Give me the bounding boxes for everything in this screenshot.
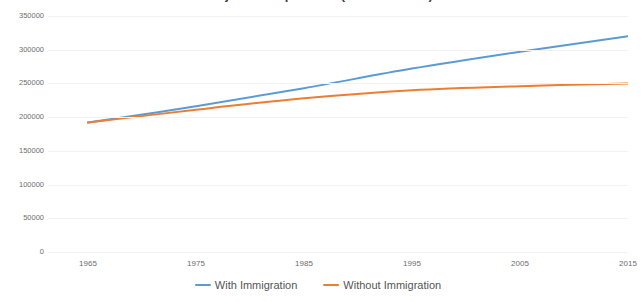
x-axis-tick-label: 1985 [274, 258, 334, 270]
x-axis-tick-label: 2005 [490, 258, 550, 270]
y-axis-tick-label: 50000 [0, 214, 44, 222]
chart-legend: With ImmigrationWithout Immigration [0, 278, 636, 292]
legend-item[interactable]: Without Immigration [323, 278, 441, 292]
legend-item[interactable]: With Immigration [195, 278, 298, 292]
chart-title: Projected Population (in thousands) [0, 0, 636, 2]
legend-item-label: Without Immigration [343, 278, 441, 292]
y-axis-tick-label: 100000 [0, 181, 44, 189]
legend-color-swatch [195, 284, 211, 287]
y-axis-tick-label: 350000 [0, 12, 44, 20]
x-axis-tick-label: 1995 [382, 258, 442, 270]
y-axis-tick-label: 250000 [0, 79, 44, 87]
gridline [48, 218, 628, 219]
x-axis-tick-label: 1975 [166, 258, 226, 270]
y-axis-tick-label: 200000 [0, 113, 44, 121]
y-axis-tick-label: 0 [0, 248, 44, 256]
x-axis-tick-label: 2015 [598, 258, 642, 270]
x-axis-tick-label: 1965 [58, 258, 118, 270]
legend-color-swatch [323, 284, 339, 287]
gridline [48, 252, 628, 253]
gridline [48, 117, 628, 118]
gridline [48, 151, 628, 152]
y-axis-tick-label: 150000 [0, 147, 44, 155]
gridline [48, 83, 628, 84]
gridline [48, 16, 628, 17]
legend-item-label: With Immigration [215, 278, 298, 292]
y-axis-tick-label: 300000 [0, 46, 44, 54]
gridline [48, 50, 628, 51]
series-layer [48, 16, 628, 252]
plot-area [48, 16, 628, 252]
y-axis: 0500001000001500002000002500003000003500… [0, 16, 44, 252]
gridline [48, 185, 628, 186]
x-axis: 196519751985199520052015 [48, 258, 628, 272]
